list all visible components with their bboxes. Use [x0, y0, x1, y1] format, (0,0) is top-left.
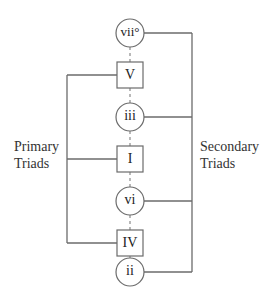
primary-label-line1: Primary	[14, 138, 59, 155]
primary-triads-label: Primary Triads	[14, 138, 59, 172]
node-label-iii: iii	[115, 108, 145, 124]
node-label-ii: ii	[115, 263, 145, 279]
secondary-label-line2: Triads	[200, 155, 259, 172]
node-label-IV: IV	[115, 235, 145, 251]
node-label-vi: vi	[115, 192, 145, 208]
secondary-bracket	[144, 33, 192, 272]
primary-label-line2: Triads	[14, 155, 59, 172]
node-label-V: V	[115, 67, 145, 83]
secondary-triads-label: Secondary Triads	[200, 138, 259, 172]
primary-bracket	[67, 75, 117, 243]
secondary-label-line1: Secondary	[200, 138, 259, 155]
node-label-vii-dim: vii°	[115, 24, 145, 40]
node-label-I: I	[115, 151, 145, 167]
